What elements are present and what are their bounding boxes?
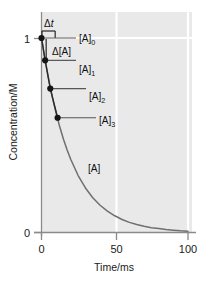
a0-subscript: 0: [91, 38, 95, 47]
x-tick-label-100: 100: [179, 243, 197, 255]
a3-subscript: 3: [111, 120, 115, 129]
x-axis-title: Time/ms: [94, 261, 134, 273]
chart-svg: 1 0 0 50 100 Time/ms Concentration/M: [0, 0, 204, 286]
delta-A-label: Δ[A]: [52, 46, 71, 57]
x-tick-label-50: 50: [110, 243, 122, 255]
x-tick-label-0: 0: [38, 243, 44, 255]
data-point-a2: [47, 85, 53, 91]
y-tick-label-0: 0: [24, 227, 30, 239]
a1-base: [A]: [79, 64, 91, 75]
a2-subscript: 2: [101, 96, 105, 105]
a0-base: [A]: [79, 33, 91, 44]
a3-base: [A]: [99, 115, 111, 126]
a2-base: [A]: [89, 91, 101, 102]
kinetics-decay-figure: 1 0 0 50 100 Time/ms Concentration/M: [0, 0, 204, 286]
data-point-a0: [38, 35, 44, 41]
delta-t-label: Δt: [44, 18, 55, 29]
y-axis-title: Concentration/M: [7, 83, 19, 160]
curve-label: [A]: [88, 163, 100, 174]
a1-subscript: 1: [91, 69, 95, 78]
data-point-a1: [42, 57, 48, 63]
y-tick-label-1: 1: [24, 33, 30, 45]
data-point-a3: [55, 115, 61, 121]
